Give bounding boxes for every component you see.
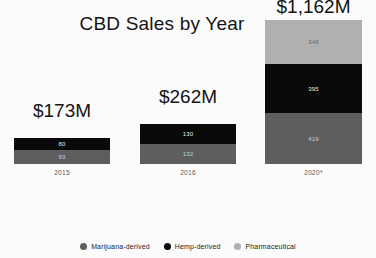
legend-item-label: Marijuana-derived (91, 243, 150, 250)
legend-item-label: Pharmaceutical (245, 243, 295, 250)
segment-value: 130 (183, 131, 194, 137)
bar-segment-marijuana[interactable]: 132 (140, 144, 236, 164)
legend-item-pharmaceutical[interactable]: Pharmaceutical (234, 243, 295, 250)
bar-segment-marijuana[interactable]: 93 (14, 150, 110, 164)
bar-group-2020[interactable]: $1,162M 348 395 419 2020* (265, 0, 362, 164)
segment-value: 93 (58, 154, 65, 160)
chart-legend: Marijuana-derived Hemp-derived Pharmaceu… (0, 243, 376, 250)
bar-total-label: $262M (140, 87, 236, 106)
segment-value: 80 (58, 141, 65, 147)
bar-category-label: 2015 (14, 164, 110, 176)
bar-group-2015[interactable]: $173M 80 93 2015 (14, 124, 110, 164)
segment-value: 419 (308, 136, 319, 142)
segment-value: 132 (183, 151, 194, 157)
plot-area: $173M 80 93 2015 $262M (0, 0, 376, 222)
bar-segment-pharmaceutical[interactable]: 348 (265, 20, 362, 64)
bar-group-2016[interactable]: $262M 130 132 2016 (140, 108, 236, 164)
segment-value: 348 (308, 39, 319, 45)
bar-total-label: $1,162M (265, 0, 362, 16)
bar-category-label: 2020* (265, 164, 362, 176)
legend-swatch-icon (80, 243, 87, 250)
legend-item-label: Hemp-derived (175, 243, 221, 250)
bar-segment-hemp[interactable]: 80 (14, 138, 110, 150)
segment-value: 395 (308, 86, 319, 92)
bar-segment-hemp[interactable]: 130 (140, 124, 236, 144)
bar-segment-hemp[interactable]: 395 (265, 64, 362, 113)
cbd-sales-chart: CBD Sales by Year $173M 80 93 2015 $262M (0, 0, 376, 258)
bar-total-label: $173M (14, 101, 110, 120)
legend-item-hemp-derived[interactable]: Hemp-derived (164, 243, 221, 250)
bar-stack: 348 395 419 2020* (265, 20, 362, 164)
bar-stack: 130 132 2016 (140, 124, 236, 164)
legend-item-marijuana-derived[interactable]: Marijuana-derived (80, 243, 150, 250)
bar-segment-marijuana[interactable]: 419 (265, 113, 362, 164)
bar-stack: 80 93 2015 (14, 138, 110, 164)
bar-category-label: 2016 (140, 164, 236, 176)
legend-swatch-icon (164, 243, 171, 250)
legend-swatch-icon (234, 243, 241, 250)
